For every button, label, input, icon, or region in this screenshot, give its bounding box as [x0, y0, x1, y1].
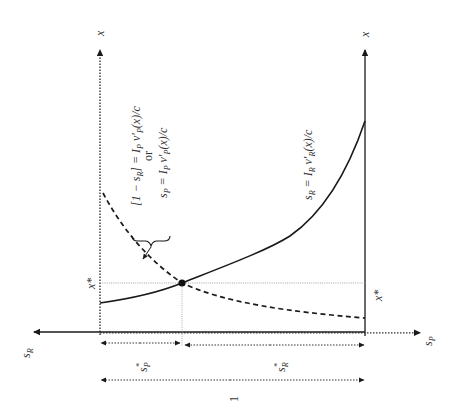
right-axis-x: x [358, 31, 372, 38]
sP-axis-label: sP [421, 336, 437, 346]
svg-text:1: 1 [227, 396, 241, 402]
sP-curve [103, 193, 365, 318]
sR-star-label: s*R [273, 362, 290, 372]
sP-star-label: s*P [135, 362, 152, 372]
svg-text:sP = IP v′P(x)/c: sP = IP v′P(x)/c [156, 127, 172, 198]
x-star-right-label: x* [371, 290, 385, 302]
equilibrium-diagram: x x sR sP x* x* sR = IR v′R(x)/c [ [0, 0, 450, 413]
x-star-left-label: x* [84, 278, 98, 290]
sR-axis-label: sR [19, 348, 35, 358]
svg-text:sP: sP [421, 336, 437, 346]
svg-text:s*R: s*R [273, 362, 290, 372]
sP-curve-label: [1 − sR] = IP v′P(x)/c or sP = IP v′P(x)… [129, 106, 172, 206]
svg-text:x*: x* [371, 290, 385, 302]
total-width-label: 1 [227, 396, 241, 402]
svg-text:sR = IR v′R(x)/c: sR = IR v′R(x)/c [301, 129, 317, 200]
sR-curve-label: sR = IR v′R(x)/c [301, 129, 317, 200]
or-label: or [141, 151, 155, 161]
svg-text:sR: sR [19, 348, 35, 358]
svg-text:x*: x* [84, 278, 98, 290]
svg-text:s*P: s*P [135, 362, 152, 372]
equilibrium-point [178, 279, 185, 286]
left-x-axis-label: x [93, 30, 107, 37]
